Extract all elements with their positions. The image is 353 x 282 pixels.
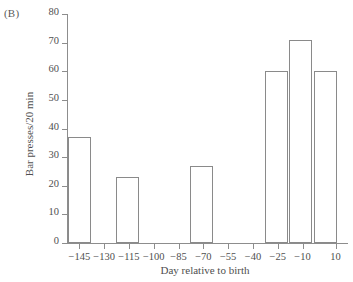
x-tick-mark	[336, 244, 337, 249]
x-tick-mark	[278, 244, 279, 249]
y-tick-mark	[62, 157, 67, 158]
y-tick-label: 80	[49, 6, 60, 17]
y-tick-mark	[62, 214, 67, 215]
y-tick-label: 50	[49, 92, 60, 103]
y-tick-label: 70	[49, 35, 60, 46]
bar	[190, 166, 213, 243]
bar	[265, 71, 288, 243]
x-axis-label: Day relative to birth	[60, 264, 350, 276]
x-tick-label: −40	[245, 251, 261, 262]
figure-panel-b: (B) Bar presses/20 min 01020304050607080…	[0, 0, 353, 282]
bar	[314, 71, 337, 243]
x-tick-mark	[303, 244, 304, 249]
x-tick-mark	[179, 244, 180, 249]
x-tick-mark	[104, 244, 105, 249]
x-tick-label: −55	[220, 251, 236, 262]
x-tick-mark	[203, 244, 204, 249]
y-tick-label: 0	[54, 235, 59, 246]
y-tick-mark	[62, 14, 67, 15]
x-tick-label: −115	[118, 251, 139, 262]
x-tick-label: −10	[294, 251, 310, 262]
y-tick-label: 30	[49, 149, 60, 160]
y-tick-mark	[62, 43, 67, 44]
y-tick-mark	[62, 186, 67, 187]
x-tick-mark	[228, 244, 229, 249]
x-tick-label: −70	[195, 251, 211, 262]
y-tick-label: 40	[49, 121, 60, 132]
panel-label: (B)	[4, 7, 19, 19]
bar	[68, 137, 91, 243]
plot-area: 01020304050607080 −145−130−115−100−85−70…	[67, 14, 348, 244]
x-tick-mark	[129, 244, 130, 249]
x-tick-label: −25	[270, 251, 286, 262]
y-tick-mark	[62, 100, 67, 101]
x-tick-label: 10	[330, 251, 341, 262]
y-tick-mark	[62, 71, 67, 72]
x-tick-label: −130	[93, 251, 115, 262]
x-tick-label: −100	[143, 251, 165, 262]
y-tick-mark	[62, 129, 67, 130]
x-tick-label: −145	[69, 251, 91, 262]
bar	[116, 177, 139, 243]
y-tick-label: 60	[49, 63, 60, 74]
y-tick-label: 10	[49, 206, 60, 217]
x-tick-mark	[253, 244, 254, 249]
x-tick-label: −85	[170, 251, 186, 262]
y-tick-mark	[62, 243, 67, 244]
x-tick-mark	[79, 244, 80, 249]
y-tick-label: 20	[49, 178, 60, 189]
bar	[289, 40, 312, 243]
x-axis-line	[67, 243, 348, 244]
x-tick-mark	[154, 244, 155, 249]
y-axis-label: Bar presses/20 min	[23, 64, 35, 204]
